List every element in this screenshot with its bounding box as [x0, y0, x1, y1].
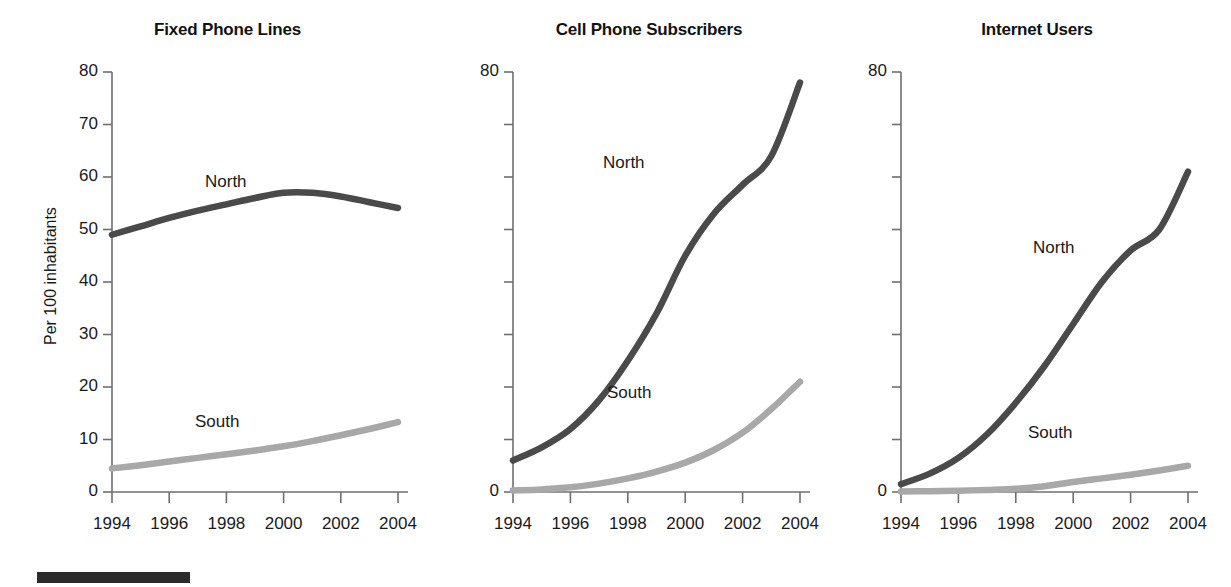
chart-panel-fixed-phone-lines: Fixed Phone Lines Per 100 inhabitants 01…: [0, 0, 455, 587]
y-tick-label: 80: [837, 61, 887, 81]
x-tick-label: 1998: [196, 514, 256, 534]
chart-panel-internet-users: Internet Users 0801994199619982000200220…: [843, 0, 1231, 587]
y-tick-label: 10: [48, 429, 98, 449]
series-line-north: [112, 192, 398, 235]
y-tick-label: 80: [48, 61, 98, 81]
y-tick-label: 20: [48, 376, 98, 396]
plot-area-cell-phone-subscribers: [455, 0, 843, 587]
x-tick-label: 2002: [311, 514, 371, 534]
y-tick-label: 0: [837, 481, 887, 501]
series-line-north: [513, 83, 800, 461]
series-label-south: South: [195, 412, 239, 432]
series-label-north: North: [1033, 238, 1075, 258]
x-tick-label: 2004: [368, 514, 428, 534]
y-tick-label: 70: [48, 114, 98, 134]
x-tick-label: 2004: [1158, 514, 1218, 534]
x-tick-label: 2002: [713, 514, 773, 534]
plot-area-internet-users: [843, 0, 1231, 587]
chart-panel-cell-phone-subscribers: Cell Phone Subscribers 08019941996199820…: [455, 0, 843, 587]
series-label-south: South: [607, 383, 651, 403]
x-tick-label: 2000: [655, 514, 715, 534]
x-tick-label: 1994: [483, 514, 543, 534]
x-tick-label: 2000: [254, 514, 314, 534]
y-tick-label: 0: [48, 481, 98, 501]
series-line-south: [112, 422, 398, 468]
y-tick-label: 50: [48, 219, 98, 239]
x-tick-label: 1998: [598, 514, 658, 534]
footer-rule: [37, 572, 190, 583]
x-tick-label: 2000: [1043, 514, 1103, 534]
x-tick-label: 2002: [1101, 514, 1161, 534]
y-tick-label: 40: [48, 271, 98, 291]
x-tick-label: 1994: [82, 514, 142, 534]
y-tick-label: 0: [449, 481, 499, 501]
x-tick-label: 1996: [139, 514, 199, 534]
series-label-north: North: [205, 172, 247, 192]
x-tick-label: 2004: [770, 514, 830, 534]
y-tick-label: 60: [48, 166, 98, 186]
x-tick-label: 1994: [871, 514, 931, 534]
y-tick-label: 30: [48, 324, 98, 344]
x-tick-label: 1996: [540, 514, 600, 534]
series-label-north: North: [603, 153, 645, 173]
x-tick-label: 1996: [928, 514, 988, 534]
x-tick-label: 1998: [986, 514, 1046, 534]
y-tick-label: 80: [449, 61, 499, 81]
series-label-south: South: [1028, 423, 1072, 443]
